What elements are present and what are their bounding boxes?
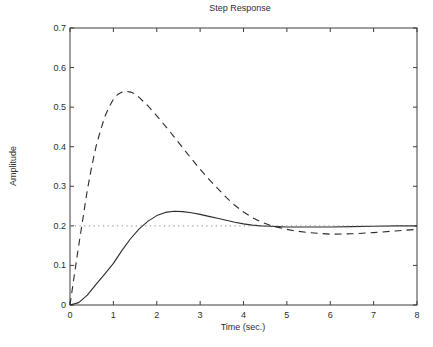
x-tick-label: 5 [284,310,289,320]
figure-canvas: Step Response Time (sec.) Amplitude 0123… [0,0,433,347]
x-tick-label: 1 [111,310,116,320]
dashed-response-curve [70,91,417,305]
x-tick-label: 0 [67,310,72,320]
y-tick-label: 0.3 [53,181,66,191]
x-tick-label: 4 [241,310,246,320]
y-tick-label: 0.1 [53,260,66,270]
axes-box [70,28,417,305]
x-tick-label: 2 [154,310,159,320]
plot-area: 01234567800.10.20.30.40.50.60.7 [53,23,419,320]
y-tick-label: 0.5 [53,102,66,112]
x-tick-label: 8 [414,310,419,320]
solid-response-curve [70,211,417,305]
y-tick-label: 0 [61,300,66,310]
y-axis-label: Amplitude [8,146,18,186]
x-tick-label: 6 [328,310,333,320]
y-tick-label: 0.4 [53,142,66,152]
y-tick-label: 0.2 [53,221,66,231]
y-tick-label: 0.7 [53,23,66,33]
x-tick-label: 7 [371,310,376,320]
chart-title: Step Response [209,3,271,13]
step-response-chart: Step Response Time (sec.) Amplitude 0123… [0,0,433,347]
y-tick-label: 0.6 [53,63,66,73]
x-axis-label: Time (sec.) [221,322,266,332]
x-tick-label: 3 [198,310,203,320]
